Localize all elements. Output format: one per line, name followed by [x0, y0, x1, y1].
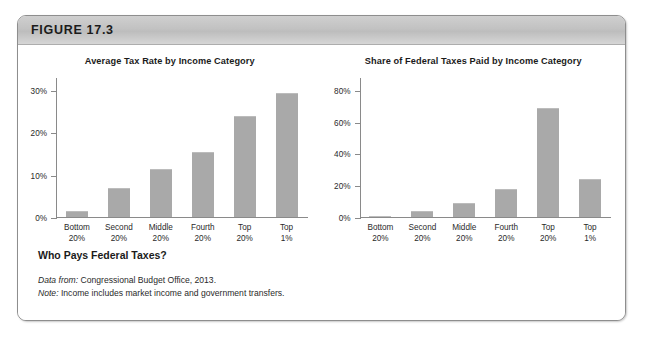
category-label: Top1%: [569, 222, 611, 244]
chart-share-of-federal-taxes: Share of Federal Taxes Paid by Income Ca…: [322, 45, 626, 245]
bar: [108, 188, 130, 217]
category-labels: Bottom20%Second20%Middle20%Fourth20%Top2…: [360, 222, 612, 244]
y-tick-mark: [355, 91, 361, 92]
bar-slot: [485, 78, 527, 217]
bar-slot: [266, 78, 308, 217]
figure-frame: FIGURE 17.3 Average Tax Rate by Income C…: [17, 15, 626, 321]
bar: [234, 116, 256, 217]
bars-layer: [56, 78, 308, 217]
y-tick-label: 30%: [31, 86, 47, 95]
caption-title: Who Pays Federal Taxes?: [38, 249, 605, 261]
bar: [495, 189, 517, 217]
category-label: Middle20%: [443, 222, 485, 244]
plot-area: 0%10%20%30% Bottom20%Second20%Middle20%F…: [18, 74, 322, 245]
chart-title: Average Tax Rate by Income Category: [18, 56, 322, 66]
charts-row: Average Tax Rate by Income Category 0%10…: [18, 45, 625, 245]
note-text: Income includes market income and govern…: [59, 288, 285, 298]
category-label: Second20%: [401, 222, 443, 244]
category-label-line: Top: [224, 222, 266, 233]
bar-slot: [401, 78, 443, 217]
category-label: Bottom20%: [360, 222, 402, 244]
bar-slot: [56, 78, 98, 217]
category-label-line: 20%: [98, 233, 140, 244]
category-label-line: Bottom: [56, 222, 98, 233]
bar-slot: [182, 78, 224, 217]
note-line: Note: Income includes market income and …: [38, 287, 605, 300]
category-label-line: 20%: [527, 233, 569, 244]
bar: [453, 203, 475, 217]
y-tick-label: 0%: [35, 214, 47, 223]
category-label-line: Middle: [140, 222, 182, 233]
category-label-line: Middle: [443, 222, 485, 233]
category-label: Second20%: [98, 222, 140, 244]
category-label: Top20%: [224, 222, 266, 244]
bar-slot: [224, 78, 266, 217]
source-lead: Data from:: [38, 275, 78, 285]
bar: [192, 152, 214, 217]
category-label-line: 1%: [266, 233, 308, 244]
category-label-line: Fourth: [182, 222, 224, 233]
y-tick-label: 20%: [334, 182, 350, 191]
category-label-line: 20%: [443, 233, 485, 244]
category-label-line: Second: [98, 222, 140, 233]
category-label: Bottom20%: [56, 222, 98, 244]
category-label: Top20%: [527, 222, 569, 244]
category-label-line: 20%: [182, 233, 224, 244]
x-axis-line: [360, 217, 612, 218]
category-label-line: Top: [569, 222, 611, 233]
figure-header: FIGURE 17.3: [18, 16, 625, 45]
category-label-line: 20%: [56, 233, 98, 244]
y-tick-mark: [51, 218, 57, 219]
bar: [150, 169, 172, 217]
plot-area: 0%20%40%60%80% Bottom20%Second20%Middle2…: [322, 74, 626, 245]
x-axis-line: [56, 217, 308, 218]
bar-slot: [443, 78, 485, 217]
y-tick-mark: [355, 123, 361, 124]
category-labels: Bottom20%Second20%Middle20%Fourth20%Top2…: [56, 222, 308, 244]
source-line: Data from: Congressional Budget Office, …: [38, 274, 605, 287]
axis-area: 0%20%40%60%80%: [360, 78, 612, 218]
y-tick-label: 40%: [334, 150, 350, 159]
category-label-line: Second: [401, 222, 443, 233]
bar-slot: [140, 78, 182, 217]
bars-layer: [360, 78, 612, 217]
note-lead: Note:: [38, 288, 59, 298]
chart-average-tax-rate: Average Tax Rate by Income Category 0%10…: [18, 45, 322, 245]
bar: [276, 93, 298, 217]
bar: [579, 179, 601, 217]
category-label-line: 1%: [569, 233, 611, 244]
y-tick-label: 60%: [334, 118, 350, 127]
bar: [411, 211, 433, 217]
figure-label: FIGURE 17.3: [31, 23, 114, 37]
y-tick-mark: [51, 91, 57, 92]
y-tick-mark: [355, 186, 361, 187]
bar-slot: [360, 78, 402, 217]
category-label-line: 20%: [401, 233, 443, 244]
y-tick-mark: [51, 176, 57, 177]
y-tick-label: 20%: [31, 129, 47, 138]
y-tick-label: 10%: [31, 171, 47, 180]
chart-title: Share of Federal Taxes Paid by Income Ca…: [322, 56, 626, 66]
category-label: Fourth20%: [182, 222, 224, 244]
bar-slot: [527, 78, 569, 217]
bar: [369, 216, 391, 217]
y-tick-mark: [355, 154, 361, 155]
y-tick-mark: [355, 218, 361, 219]
y-tick-mark: [51, 133, 57, 134]
axis-area: 0%10%20%30%: [56, 78, 308, 218]
category-label-line: Bottom: [360, 222, 402, 233]
category-label-line: 20%: [485, 233, 527, 244]
bar: [66, 211, 88, 217]
figure-body: Average Tax Rate by Income Category 0%10…: [18, 45, 625, 320]
category-label: Fourth20%: [485, 222, 527, 244]
category-label-line: 20%: [360, 233, 402, 244]
y-tick-label: 80%: [334, 86, 350, 95]
category-label-line: Top: [527, 222, 569, 233]
bar: [537, 108, 559, 217]
category-label-line: 20%: [140, 233, 182, 244]
caption-area: Who Pays Federal Taxes? Data from: Congr…: [38, 249, 605, 299]
category-label-line: 20%: [224, 233, 266, 244]
source-text: Congressional Budget Office, 2013.: [78, 275, 216, 285]
y-tick-label: 0%: [339, 214, 351, 223]
category-label-line: Top: [266, 222, 308, 233]
